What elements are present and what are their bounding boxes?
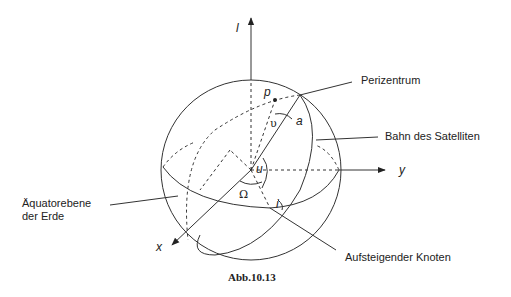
symbol-a: a (296, 115, 303, 127)
symbol-u: u (256, 163, 263, 175)
z-axis-label: l (236, 22, 239, 34)
symbol-nu: υ (270, 118, 277, 130)
perigee-leader (300, 82, 352, 95)
node-line-back2 (200, 150, 230, 190)
equator-label-line1: Äquatorebene (22, 197, 91, 210)
symbol-p: p (264, 86, 271, 98)
y-axis-label: y (399, 164, 405, 176)
omega-arc (240, 181, 262, 184)
ascending-node-label: Aufsteigender Knoten (345, 251, 451, 264)
nu-arc (275, 114, 292, 119)
equator-front (163, 167, 339, 208)
x-axis-label: x (156, 241, 162, 253)
perigee-label: Perizentrum (361, 74, 420, 87)
orbit-leader (316, 137, 378, 140)
radius-to-p (251, 100, 275, 170)
orbit-back (187, 95, 300, 240)
equator-back-right (315, 145, 339, 170)
orbit-label: Bahn des Satelliten (385, 130, 480, 143)
symbol-i: i (276, 198, 279, 210)
equator-back (163, 142, 195, 167)
figure-caption: Abb.10.13 (228, 271, 276, 283)
x-axis (172, 170, 251, 245)
node-line-back (230, 150, 251, 170)
equator-label-line2: der Erde (22, 210, 64, 223)
perigee-point-p (273, 98, 277, 102)
symbol-omega: Ω (239, 189, 248, 201)
